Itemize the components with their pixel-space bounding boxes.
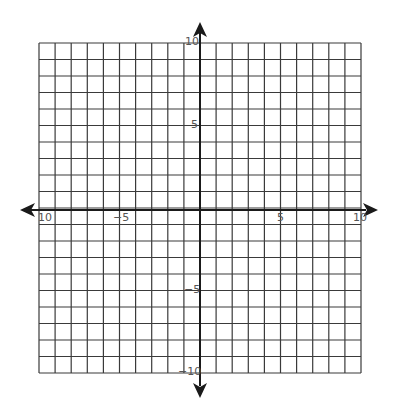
x-tick-label-5: 5 bbox=[277, 212, 284, 223]
coordinate-plane bbox=[0, 0, 393, 410]
y-tick-label-5: 5 bbox=[191, 119, 198, 130]
y-tick-label-neg5: −5 bbox=[184, 284, 200, 295]
x-tick-label-10: 10 bbox=[353, 212, 367, 223]
x-tick-label-neg5: −5 bbox=[113, 212, 129, 223]
y-tick-label-neg10: −10 bbox=[178, 366, 201, 377]
x-tick-label-neg10: 10 bbox=[38, 212, 52, 223]
y-tick-label-10: 10 bbox=[185, 36, 199, 47]
